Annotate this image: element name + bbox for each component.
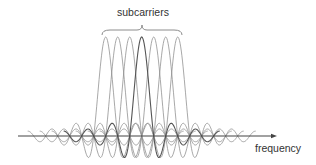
subcarrier-curves	[28, 37, 256, 157]
axis-arrowhead-icon	[271, 134, 277, 138]
frequency-axis-label: frequency	[255, 143, 301, 154]
subcarriers-brace	[102, 25, 182, 35]
subcarriers-label: subcarriers	[117, 7, 169, 18]
ofdm-subcarrier-diagram	[0, 0, 316, 165]
